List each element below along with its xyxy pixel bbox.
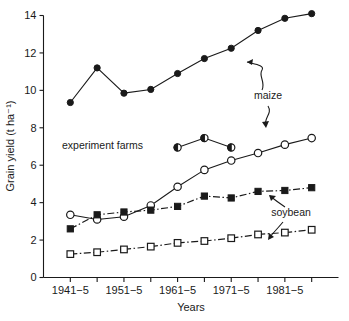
- data-point-soybean-upper-0: [67, 226, 73, 232]
- y-axis-ticks: [40, 16, 44, 278]
- data-point-maize-commercial-6: [228, 157, 235, 164]
- series-experiment-farms: [174, 134, 235, 151]
- y-tick-label-12: 12: [24, 47, 36, 59]
- x-tick-label-0: 1941−5: [52, 284, 89, 296]
- x-axis-title: Years: [177, 301, 205, 313]
- annotation-soybean: soybean: [271, 206, 311, 218]
- series-line-soybean-lower: [70, 230, 311, 254]
- data-point-maize-experiment-stations-5: [201, 55, 207, 61]
- x-axis-tick-labels: 1941−51951−51961−51971−51981−5: [52, 284, 304, 296]
- data-point-maize-experiment-stations-9: [309, 11, 315, 17]
- data-point-maize-commercial-8: [281, 141, 288, 148]
- data-point-experiment-farms-1: [201, 134, 208, 141]
- y-tick-label-6: 6: [30, 159, 36, 171]
- data-point-soybean-lower-6: [228, 235, 235, 242]
- data-point-soybean-upper-3: [148, 207, 154, 213]
- data-point-experiment-farms-0: [174, 144, 181, 151]
- x-axis-ticks: [70, 278, 311, 283]
- data-point-maize-experiment-stations-7: [255, 27, 261, 33]
- data-point-soybean-lower-3: [147, 243, 154, 250]
- y-tick-label-2: 2: [30, 234, 36, 246]
- data-point-maize-experiment-stations-8: [282, 15, 288, 21]
- data-point-soybean-lower-4: [174, 240, 181, 247]
- data-point-soybean-upper-2: [121, 209, 127, 215]
- data-point-soybean-lower-9: [308, 226, 315, 233]
- data-point-soybean-upper-6: [228, 195, 234, 201]
- annotation-experiment-farms: experiment farms: [62, 139, 143, 151]
- data-point-maize-commercial-4: [174, 183, 181, 190]
- y-tick-label-14: 14: [24, 9, 36, 21]
- y-tick-label-10: 10: [24, 84, 36, 96]
- data-point-soybean-lower-0: [67, 251, 74, 258]
- data-point-maize-commercial-0: [67, 211, 74, 218]
- data-point-soybean-lower-1: [94, 249, 101, 256]
- data-point-maize-commercial-7: [254, 149, 261, 156]
- maize-arrowhead-upper: [247, 59, 253, 65]
- y-tick-label-4: 4: [30, 196, 36, 208]
- y-tick-label-8: 8: [30, 122, 36, 134]
- data-point-experiment-farms-2: [228, 144, 235, 151]
- data-point-maize-experiment-stations-0: [67, 99, 73, 105]
- data-point-soybean-lower-7: [255, 231, 262, 238]
- y-axis-tick-labels: 02468101214: [24, 9, 36, 283]
- data-point-maize-commercial-9: [308, 134, 315, 141]
- chart-container: 02468101214 1941−51951−51961−51971−51981…: [0, 0, 349, 321]
- data-point-maize-experiment-stations-6: [228, 45, 234, 51]
- data-point-maize-experiment-stations-2: [121, 90, 127, 96]
- data-point-maize-experiment-stations-1: [94, 65, 100, 71]
- data-point-soybean-lower-2: [121, 246, 128, 253]
- data-point-soybean-upper-8: [282, 187, 288, 193]
- series-soybean-lower: [67, 226, 315, 257]
- data-point-maize-experiment-stations-3: [148, 86, 154, 92]
- y-tick-label-0: 0: [30, 271, 36, 283]
- data-point-soybean-upper-5: [201, 193, 207, 199]
- grain-yield-line-chart: 02468101214 1941−51951−51961−51971−51981…: [0, 0, 349, 321]
- data-point-soybean-lower-8: [282, 229, 289, 236]
- data-point-maize-experiment-stations-4: [174, 70, 180, 76]
- data-point-soybean-lower-5: [201, 238, 208, 245]
- x-tick-label-3: 1971−5: [213, 284, 250, 296]
- data-point-maize-commercial-5: [201, 166, 208, 173]
- maize-arrow-upper: [247, 62, 263, 90]
- series-layer: [67, 11, 316, 258]
- x-tick-label-2: 1961−5: [159, 284, 196, 296]
- data-point-soybean-upper-7: [255, 188, 261, 194]
- maize-arrowhead-lower: [262, 121, 269, 128]
- data-point-soybean-upper-9: [309, 185, 315, 191]
- data-point-soybean-upper-4: [174, 203, 180, 209]
- y-axis-title: Grain yield (t ha⁻¹): [4, 101, 16, 192]
- x-tick-label-4: 1981−5: [266, 284, 303, 296]
- data-point-soybean-upper-1: [94, 212, 100, 218]
- x-tick-label-1: 1951−5: [105, 284, 142, 296]
- annotation-maize: maize: [254, 89, 282, 101]
